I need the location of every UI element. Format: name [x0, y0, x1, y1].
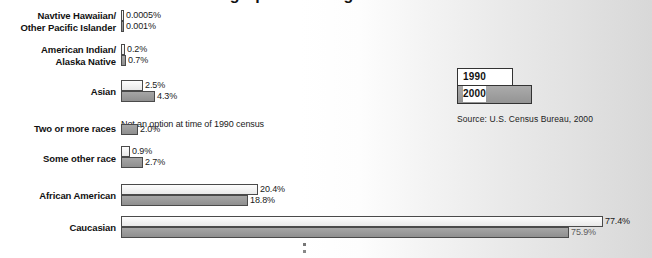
row-bars-native-hawaiian: 0.0005% 0.001% — [121, 10, 161, 32]
legend-item-1990[interactable]: 1990 — [457, 68, 513, 86]
bar-line-2000: 0.7% — [121, 55, 148, 66]
bar-line-1990: 20.4% — [121, 184, 285, 195]
bar-line-1990: 77.4% — [121, 216, 630, 227]
row-label-line1: Navtive Hawaiian/ — [37, 10, 116, 21]
bar-2000[interactable] — [121, 195, 248, 206]
bar-value-1990: 0.0005% — [124, 10, 161, 21]
bar-line-1990: 0.0005% — [121, 10, 161, 21]
bar-value-1990: 0.2% — [125, 44, 147, 55]
row-bars-two-or-more: Not an option at time of 1990 census 2.0… — [121, 113, 264, 135]
bar-line-2000: 2.7% — [121, 157, 165, 168]
row-label-some-other-race: Some other race — [0, 153, 116, 165]
row-bars-american-indian: 0.2% 0.7% — [121, 44, 148, 66]
bar-1990[interactable] — [121, 80, 143, 91]
bar-value-2000: 0.7% — [126, 55, 148, 66]
bar-line-1990: 0.2% — [121, 44, 148, 55]
bar-2000[interactable] — [121, 91, 155, 102]
source-note: Source: U.S. Census Bureau, 2000 — [457, 114, 593, 124]
bar-value-1990: 0.9% — [130, 146, 152, 157]
bar-value-1990: 2.5% — [143, 80, 165, 91]
bar-line-1990: 0.9% — [121, 146, 165, 157]
row-label-line1: Some other race — [43, 153, 116, 164]
bar-line-2000: 75.9% — [121, 227, 630, 238]
bar-line-1990-note: Not an option at time of 1990 census — [121, 113, 264, 124]
bar-value-1990: 77.4% — [603, 216, 630, 227]
row-label-native-hawaiian: Navtive Hawaiian/ Other Pacific Islander — [0, 10, 116, 33]
bar-1990[interactable] — [121, 216, 603, 227]
bar-line-2000: 4.3% — [121, 91, 177, 102]
row-label-american-indian: American Indian/ Alaska Native — [0, 44, 116, 67]
row-label-line1: American Indian/ — [41, 44, 116, 55]
chart-legend: 2000 1990 — [457, 68, 577, 106]
row-bars-caucasian: 77.4% 75.9% — [121, 216, 630, 238]
bar-line-1990: 2.5% — [121, 80, 177, 91]
bar-value-2000: 75.9% — [569, 227, 596, 238]
chart-container: Racial Demographics Change in the United… — [0, 0, 652, 258]
row-label-two-or-more: Two or more races — [0, 123, 116, 135]
row-label-line1: Caucasian — [69, 222, 116, 233]
row-label-line2: Other Pacific Islander — [21, 22, 116, 33]
row-label-line1: Two or more races — [34, 123, 116, 134]
row-bars-asian: 2.5% 4.3% — [121, 80, 177, 102]
row-label-line1: Asian — [91, 86, 116, 97]
bar-2000[interactable] — [121, 124, 138, 135]
legend-label-2000: 2000 — [463, 86, 486, 102]
bar-line-2000: 2.0% — [121, 124, 264, 135]
bar-1990[interactable] — [121, 146, 130, 157]
bar-line-2000: 18.8% — [121, 195, 285, 206]
legend-item-2000[interactable]: 2000 — [457, 85, 532, 104]
chart-title-clipped: Racial Demographics Change in the United… — [0, 0, 652, 3]
bar-value-2000: 4.3% — [155, 91, 177, 102]
bar-value-2000: 2.7% — [143, 157, 165, 168]
bar-line-2000: 0.001% — [121, 21, 161, 32]
row-label-african-american: African American — [0, 190, 116, 202]
bar-2000[interactable] — [121, 227, 569, 238]
row-bars-some-other-race: 0.9% 2.7% — [121, 146, 165, 168]
bar-value-1990: 20.4% — [258, 184, 285, 195]
chart-title: Racial Demographics Change in the United… — [0, 0, 652, 3]
page-artifact-mark-upper — [303, 243, 306, 246]
legend-label-1990: 1990 — [463, 71, 486, 82]
row-bars-african-american: 20.4% 18.8% — [121, 184, 285, 206]
bar-value-2000: 2.0% — [138, 124, 160, 135]
row-label-line1: African American — [39, 190, 116, 201]
row-label-caucasian: Caucasian — [0, 222, 116, 234]
bar-value-2000: 0.001% — [124, 21, 156, 32]
page-artifact-mark-lower — [303, 250, 306, 253]
bar-1990[interactable] — [121, 184, 258, 195]
bar-2000[interactable] — [121, 157, 143, 168]
bar-value-2000: 18.8% — [248, 195, 275, 206]
row-label-line2: Alaska Native — [56, 56, 117, 67]
row-label-asian: Asian — [0, 86, 116, 98]
